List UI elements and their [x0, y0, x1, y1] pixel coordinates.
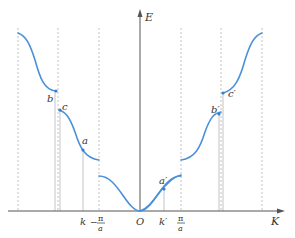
label-b: b — [47, 93, 53, 104]
band-2-right — [181, 112, 221, 160]
point-b — [54, 89, 57, 92]
k-prime-tick-label: k′ — [159, 216, 168, 227]
e-axis-label: E — [144, 11, 153, 24]
pi-denominator: a — [178, 224, 183, 233]
point-a-prime — [162, 187, 165, 190]
k-tick-label: k — [80, 216, 86, 227]
label-b-prime: b′ — [211, 104, 220, 115]
origin-label: O — [136, 216, 144, 227]
e-axis-arrow-icon — [138, 9, 143, 17]
point-a — [81, 148, 84, 151]
neg-pi-denominator: a — [98, 224, 103, 233]
neg-sign: − — [90, 217, 98, 227]
band-3-right — [223, 33, 262, 93]
point-c-prime — [221, 91, 224, 94]
label-a: a — [82, 135, 88, 146]
guide-lines — [55, 92, 223, 211]
pi-numerator: π — [178, 214, 183, 223]
axes — [8, 14, 281, 211]
k-axis-arrow-icon — [277, 209, 285, 214]
k-axis-label: K — [270, 215, 280, 228]
label-c: c — [62, 101, 68, 112]
band-3-left — [18, 33, 56, 91]
label-a-prime: a′ — [159, 175, 168, 186]
band-2-left — [59, 110, 99, 160]
label-c-prime: c′ — [228, 88, 237, 99]
neg-pi-numerator: π — [98, 214, 103, 223]
energy-band-diagram: E K O k − π a k′ π a a a′ b c b′ c′ — [0, 0, 295, 238]
